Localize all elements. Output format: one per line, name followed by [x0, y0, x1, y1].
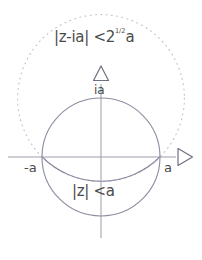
axis-label-positive-a: a: [164, 161, 172, 174]
outer-disk-inequality-prefix: |z-ia| <2: [54, 28, 115, 46]
complex-plane-diagram: |z-ia| <21/2a ia -a a |z| <a: [0, 0, 202, 260]
outer-disk-inequality-exponent: 1/2: [115, 27, 125, 35]
inner-disk-inequality-label: |z| <a: [72, 184, 115, 199]
axis-label-negative-a: -a: [24, 161, 37, 174]
outer-disk-inequality-suffix: a: [125, 28, 134, 46]
imaginary-axis-arrowhead-icon: [94, 66, 109, 81]
outer-disk-inequality-label: |z-ia| <21/2a: [54, 30, 134, 45]
real-axis-arrowhead-icon: [178, 149, 193, 166]
imaginary-point-label: ia: [94, 84, 105, 96]
